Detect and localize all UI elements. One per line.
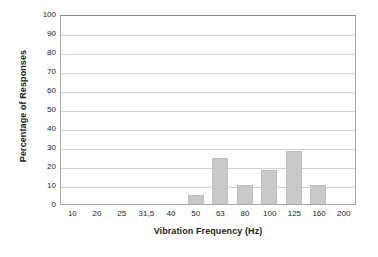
x-axis-tick-label: 63 [208, 208, 233, 222]
y-axis-tick-label: 80 [28, 49, 56, 57]
x-axis-tick-label: 80 [233, 208, 258, 222]
bar[interactable] [310, 185, 326, 204]
bar-slot [184, 16, 209, 204]
bar-slot [257, 16, 282, 204]
y-axis-tick-label: 50 [28, 106, 56, 114]
bar-slot [282, 16, 307, 204]
x-axis-tick-label: 31,5 [134, 208, 159, 222]
bar[interactable] [188, 195, 204, 205]
bar-slot [331, 16, 356, 204]
y-axis-tick-label: 60 [28, 87, 56, 95]
y-axis-tick-label: 70 [28, 68, 56, 76]
x-axis-tick-label: 50 [183, 208, 208, 222]
y-axis-tick-label: 10 [28, 182, 56, 190]
y-axis-tick-label: 20 [28, 163, 56, 171]
x-axis-tick-label: 10 [60, 208, 85, 222]
plot-area [60, 15, 356, 205]
y-axis-tick-labels: 0102030405060708090100 [28, 15, 56, 205]
x-axis-tick-label: 200 [331, 208, 356, 222]
y-axis-tick-label: 0 [28, 201, 56, 209]
bar-slot [208, 16, 233, 204]
bar[interactable] [237, 185, 253, 204]
bar-slot [135, 16, 160, 204]
bar[interactable] [261, 170, 277, 204]
bar-slot [233, 16, 258, 204]
bar-chart-figure: Percentage of Responses 0102030405060708… [0, 0, 378, 257]
y-axis-tick-label: 40 [28, 125, 56, 133]
x-axis-tick-label: 40 [159, 208, 184, 222]
bar-slot [86, 16, 111, 204]
bar[interactable] [286, 151, 302, 204]
x-axis-tick-label: 25 [109, 208, 134, 222]
x-axis-tick-label: 160 [307, 208, 332, 222]
bar-slot [306, 16, 331, 204]
bar-slot [159, 16, 184, 204]
y-axis-title-label: Percentage of Responses [18, 50, 28, 162]
x-axis-title-label: Vibration Frequency (Hz) [60, 226, 356, 236]
x-axis-tick-label: 100 [257, 208, 282, 222]
y-axis-tick-label: 90 [28, 30, 56, 38]
bar-slot [61, 16, 86, 204]
bar-slot [110, 16, 135, 204]
y-axis-tick-label: 30 [28, 144, 56, 152]
x-axis-tick-labels: 10202531,540506380100125160200 [60, 208, 356, 222]
bar[interactable] [212, 158, 228, 204]
bars-layer [61, 16, 355, 204]
x-axis-tick-label: 20 [85, 208, 110, 222]
x-axis-tick-label: 125 [282, 208, 307, 222]
y-axis-tick-label: 100 [28, 11, 56, 19]
